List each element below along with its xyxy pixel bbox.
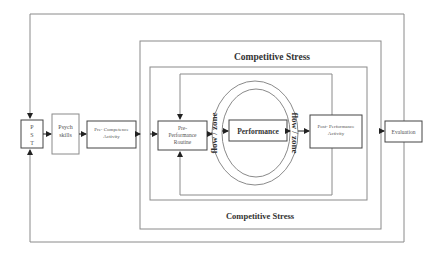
svg-text:Routine: Routine [174,139,192,145]
diagram-canvas: Competitive Stress Competitive Stress fl… [0,0,439,255]
svg-text:Post- Performance: Post- Performance [317,124,355,129]
svg-text:Pre- Competence: Pre- Competence [94,127,129,132]
svg-text:T: T [30,140,34,146]
flow-zone-left-label: flow / zone [209,113,219,154]
pre-competence-activity-box: Pre- Competence Activity [87,121,136,148]
pre-performance-routine-box: Pre- Performance Routine [158,121,207,150]
performance-box: Performance [229,120,287,141]
svg-text:Psych: Psych [58,124,72,130]
svg-text:Performance: Performance [168,132,197,138]
svg-text:Activity: Activity [103,134,120,139]
post-performance-activity-box: Post- Performance Activity [310,115,362,148]
flow-zone-right-label: flow / zone [290,113,300,154]
competitive-stress-bottom-label: Competitive Stress [226,211,295,221]
svg-text:Performance: Performance [237,127,279,136]
psych-skills-box: Psych skills [52,114,79,154]
svg-text:Activity: Activity [328,131,345,136]
evaluation-box: Evaluation [385,121,422,142]
pst-box: P S T [21,120,43,148]
svg-text:S: S [30,132,33,138]
svg-text:skills: skills [59,132,72,138]
svg-text:Evaluation: Evaluation [392,129,416,135]
competitive-stress-top-label: Competitive Stress [234,52,310,62]
svg-text:Pre-: Pre- [178,125,187,131]
